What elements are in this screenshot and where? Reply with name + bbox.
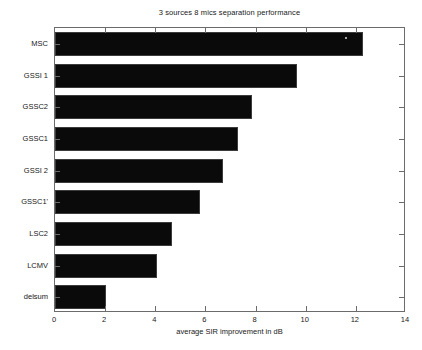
x-tick-mark [256,306,257,311]
y-tick-label: LSC2 [29,228,48,237]
bar-rect [55,95,252,119]
x-tick-label: 2 [91,315,117,324]
x-tick-mark-top [306,28,307,33]
y-tick-mark-right [399,139,404,140]
y-tick-mark-right [399,266,404,267]
y-tick-mark-right [399,107,404,108]
y-tick-mark-right [399,171,404,172]
y-tick-mark [55,139,60,140]
x-tick-mark-top [205,28,206,33]
y-tick-mark-right [399,297,404,298]
y-tick-mark [55,171,60,172]
bar-gssc1 [55,190,406,214]
y-tick-label: GSSC2 [23,102,48,111]
y-tick-mark [55,76,60,77]
y-tick-label: GSSI 2 [24,165,48,174]
x-tick-label: 10 [292,315,318,324]
y-tick-mark-right [399,44,404,45]
y-tick-label: GSSC1 [23,133,48,142]
x-tick-mark-top [155,28,156,33]
bar-rect [55,32,363,56]
x-tick-label: 14 [392,315,418,324]
y-tick-label: delsum [24,292,48,301]
x-tick-label: 6 [191,315,217,324]
x-tick-mark [205,306,206,311]
x-tick-label: 8 [242,315,268,324]
y-tick-label: GSSI 1 [24,70,48,79]
y-tick-mark-right [399,76,404,77]
y-tick-mark-right [399,202,404,203]
bar-lcmv [55,254,406,278]
bar-gssi-2 [55,159,406,183]
x-axis-label: average SIR improvement in dB [54,327,405,336]
x-tick-label: 12 [342,315,368,324]
bar-rect [55,159,223,183]
x-tick-mark [306,306,307,311]
bar-rect [55,222,172,246]
bar-gssc1 [55,127,406,151]
bar-rect [55,254,157,278]
bar-lsc2 [55,222,406,246]
bar-msc [55,32,406,56]
x-tick-mark-top [256,28,257,33]
x-tick-mark [155,306,156,311]
bar-rect [55,127,238,151]
y-tick-mark [55,234,60,235]
y-tick-label: LCMV [27,260,48,269]
chart-figure: 3 sources 8 mics separation performance … [0,0,422,350]
y-tick-mark-right [399,234,404,235]
bar-delsum [55,285,406,309]
x-tick-label: 0 [41,315,67,324]
y-tick-mark [55,297,60,298]
y-tick-label: GSSC1' [21,197,48,206]
chart-title: 3 sources 8 mics separation performance [54,8,405,17]
x-tick-label: 4 [141,315,167,324]
bars-layer [55,28,404,311]
bar-rect [55,64,297,88]
bar-rect [55,190,200,214]
bar-gssi-1 [55,64,406,88]
x-tick-mark [105,306,106,311]
x-tick-mark-top [105,28,106,33]
y-tick-mark [55,266,60,267]
bar-gssc2 [55,95,406,119]
plot-area [54,27,405,312]
x-tick-mark [356,306,357,311]
y-tick-mark [55,202,60,203]
y-tick-mark [55,107,60,108]
bar-rect [55,285,106,309]
x-tick-mark-top [356,28,357,33]
y-tick-label: MSC [31,38,48,47]
y-tick-mark [55,44,60,45]
